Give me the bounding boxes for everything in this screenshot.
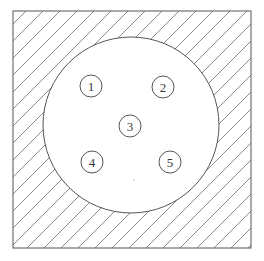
marker-4-label: 4 — [89, 155, 96, 170]
marker-2-label: 2 — [160, 80, 167, 95]
figure-container: 12345 — [0, 0, 264, 261]
marker-3-label: 3 — [127, 119, 134, 134]
marker-5-label: 5 — [167, 155, 174, 170]
marker-1[interactable]: 1 — [80, 75, 102, 97]
marker-3[interactable]: 3 — [119, 115, 141, 137]
faint-speck — [133, 179, 135, 181]
marker-2[interactable]: 2 — [152, 76, 174, 98]
marker-1-label: 1 — [88, 79, 95, 94]
marker-4[interactable]: 4 — [81, 151, 103, 173]
technical-line-diagram: 12345 — [0, 0, 264, 261]
marker-5[interactable]: 5 — [159, 151, 181, 173]
